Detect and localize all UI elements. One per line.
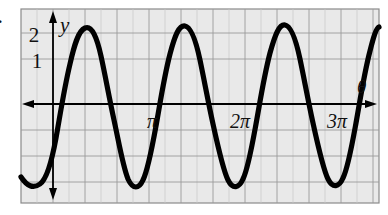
y-tick-label-1: 1 — [32, 49, 43, 73]
x-tick-label-2pi: 2π — [230, 110, 251, 132]
figure-canvas: . — [0, 0, 388, 215]
trig-graph-svg: y θ 2 1 π 2π 3π — [0, 0, 388, 215]
x-tick-label-pi: π — [147, 110, 158, 132]
x-axis-label: θ — [357, 76, 366, 97]
y-tick-label-2: 2 — [29, 23, 40, 47]
exercise-number-marker: . — [0, 8, 18, 28]
y-axis-label: y — [58, 13, 70, 37]
x-tick-label-3pi: 3π — [326, 110, 348, 132]
